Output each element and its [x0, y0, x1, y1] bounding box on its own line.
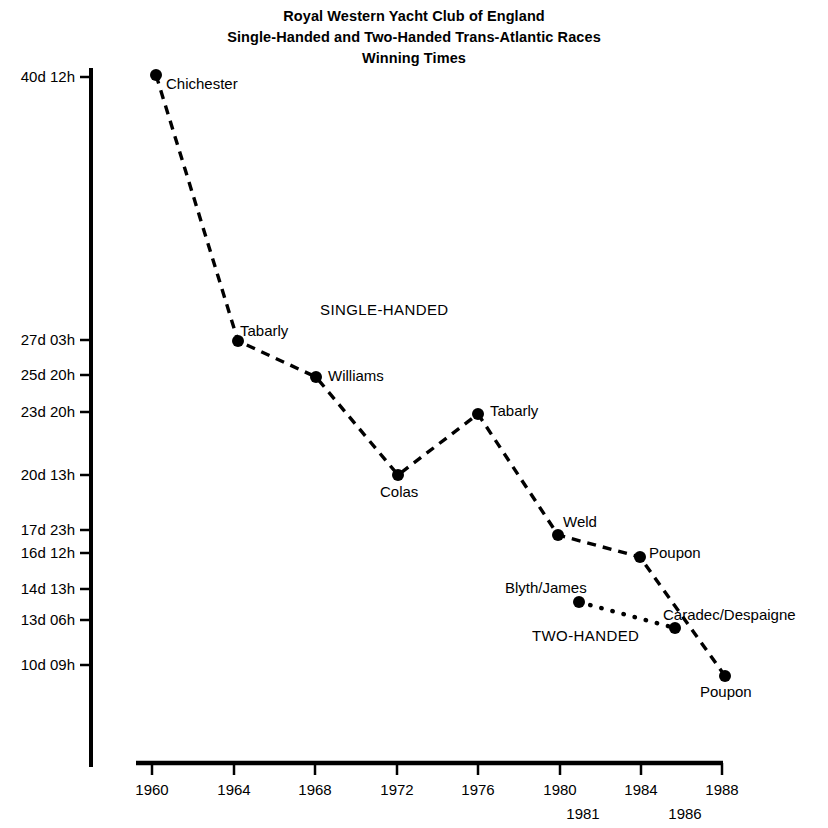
x-tick-label: 1988: [705, 781, 738, 798]
data-point-marker[interactable]: [573, 596, 585, 608]
y-tick-label: 10d 09h: [21, 656, 75, 673]
y-tick-label: 25d 20h: [21, 366, 75, 383]
x-tick-label: 1972: [380, 781, 413, 798]
data-point-marker[interactable]: [150, 69, 162, 81]
point-label-tabarly-1964: Tabarly: [240, 322, 289, 339]
data-point-marker[interactable]: [719, 670, 731, 682]
point-label-blyth-james: Blyth/James: [505, 579, 587, 596]
data-point-marker[interactable]: [310, 371, 322, 383]
y-tick-label: 40d 12h: [21, 68, 75, 85]
series-annotation-two-handed: TWO-HANDED: [532, 627, 639, 644]
x-tick-label: 1984: [624, 781, 657, 798]
data-point-marker[interactable]: [392, 469, 404, 481]
y-tick-label: 17d 23h: [21, 521, 75, 538]
data-point-marker[interactable]: [472, 408, 484, 420]
chart-plot-area: 40d 12h 27d 03h 25d 20h 23d 20h 20d 13h …: [0, 0, 828, 828]
point-label-chichester: Chichester: [166, 75, 238, 92]
point-label-poupon-1988: Poupon: [700, 683, 752, 700]
data-point-marker[interactable]: [669, 622, 681, 634]
y-tick-label: 23d 20h: [21, 403, 75, 420]
point-label-williams: Williams: [328, 367, 384, 384]
point-label-caradec-despaigne: Caradec/Despaigne: [663, 606, 796, 623]
series-annotation-single-handed: SINGLE-HANDED: [320, 301, 449, 318]
data-point-marker[interactable]: [634, 551, 646, 563]
chart-figure: Royal Western Yacht Club of England Sing…: [0, 0, 828, 828]
point-label-poupon-1984: Poupon: [649, 544, 701, 561]
x-tick-label: 1968: [298, 781, 331, 798]
x-tick-label: 1980: [543, 781, 576, 798]
x-tick-label: 1960: [135, 781, 168, 798]
point-label-weld: Weld: [563, 513, 597, 530]
y-tick-label: 14d 13h: [21, 580, 75, 597]
x-subtick-label-1981: 1981: [566, 805, 599, 822]
x-tick-label: 1964: [217, 781, 250, 798]
y-tick-label: 27d 03h: [21, 331, 75, 348]
data-point-marker[interactable]: [552, 529, 564, 541]
x-subtick-label-1986: 1986: [668, 805, 701, 822]
y-tick-label: 16d 12h: [21, 544, 75, 561]
point-label-tabarly-1976: Tabarly: [490, 402, 539, 419]
y-tick-label: 20d 13h: [21, 466, 75, 483]
point-label-colas: Colas: [380, 483, 418, 500]
x-tick-label: 1976: [461, 781, 494, 798]
single-handed-series-line: [156, 75, 725, 676]
two-handed-series-line: [579, 602, 675, 628]
y-tick-label: 13d 06h: [21, 611, 75, 628]
